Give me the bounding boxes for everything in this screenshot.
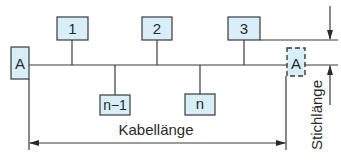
node-3: 3	[228, 17, 260, 65]
bus-topology-diagram: A A 1 2 3 n−1 n Kabellänge	[0, 0, 341, 163]
terminator-left: A	[11, 47, 29, 79]
node-2: 2	[142, 17, 172, 65]
node-3-label: 3	[240, 20, 248, 37]
node-n-minus-1: n−1	[100, 65, 130, 115]
terminator-left-label: A	[15, 55, 25, 72]
stub-length-dimension: Stichlänge	[260, 6, 338, 150]
node-2-label: 2	[153, 20, 161, 37]
node-n: n	[185, 65, 215, 115]
node-1-label: 1	[68, 20, 76, 37]
cable-length-dimension: Kabellänge	[29, 76, 286, 150]
node-n-label: n	[196, 95, 204, 112]
node-1: 1	[57, 17, 88, 65]
stub-length-label: Stichlänge	[308, 80, 325, 150]
terminator-right: A	[287, 48, 305, 76]
cable-length-label: Kabellänge	[118, 121, 193, 138]
terminator-right-label: A	[291, 55, 301, 72]
node-n-minus-1-label: n−1	[103, 97, 127, 113]
